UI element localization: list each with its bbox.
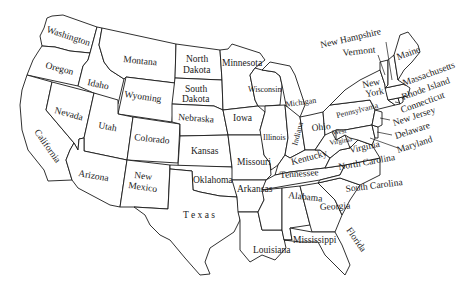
label-wisconsin: Wisconsin <box>248 85 281 94</box>
label-iowa: Iowa <box>233 113 253 123</box>
label-texas: T e x a s <box>183 210 215 220</box>
label-georgia: Georgia <box>320 200 352 212</box>
label-missouri: Missouri <box>237 157 271 167</box>
label-florida: Florida <box>344 225 368 254</box>
label-south-dakota-2: Dakota <box>182 94 210 104</box>
label-north-dakota-2: Dakota <box>183 65 211 75</box>
label-arkansas: Arkansas <box>237 184 273 194</box>
label-minnesota: Minnesota <box>222 58 263 68</box>
label-illinois: Illinois <box>263 133 286 142</box>
label-louisiana: Louisiana <box>253 245 291 255</box>
us-states-map: Washington Oregon California Idaho Nevad… <box>0 0 472 285</box>
label-mississippi: Mississippi <box>293 235 337 245</box>
label-oklahoma: Oklahoma <box>193 175 233 185</box>
label-new-mexico-1: New <box>134 170 153 182</box>
label-vermont: Vermont <box>342 45 376 58</box>
label-ohio: Ohio <box>311 121 331 133</box>
label-north-dakota-1: North <box>186 54 208 64</box>
leader-delaware <box>377 132 392 135</box>
label-south-dakota-1: South <box>185 84 207 94</box>
label-kansas: Kansas <box>191 146 219 156</box>
